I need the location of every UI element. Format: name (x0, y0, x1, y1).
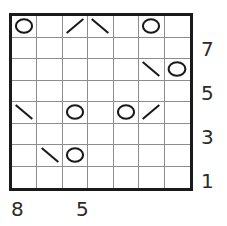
grid-cell-r6-c1[interactable] (12, 124, 37, 146)
grid-cell-r3-c4[interactable] (88, 59, 113, 81)
grid-cell-r7-c5[interactable] (114, 145, 139, 167)
grid-cell-r1-c5[interactable] (114, 16, 139, 38)
grid-cell-r3-c2[interactable] (37, 59, 62, 81)
grid-cell-r1-c4[interactable] (88, 16, 113, 38)
grid-cell-r3-c3[interactable] (63, 59, 88, 81)
grid-cell-r4-c3[interactable] (63, 81, 88, 103)
grid-cell-r6-c4[interactable] (88, 124, 113, 146)
puzzle-diagram: 7531 85 (0, 0, 227, 226)
grid-cell-r1-c2[interactable] (37, 16, 62, 38)
grid-cell-r4-c7[interactable] (165, 81, 190, 103)
grid-cell-r6-c3[interactable] (63, 124, 88, 146)
grid-cell-r6-c6[interactable] (139, 124, 164, 146)
grid-cell-r7-c1[interactable] (12, 145, 37, 167)
grid-cell-r3-c1[interactable] (12, 59, 37, 81)
bottom-clue-2: 5 (76, 199, 89, 219)
grid-cell-r3-c5[interactable] (114, 59, 139, 81)
grid-cell-r8-c7[interactable] (165, 167, 190, 189)
slash-icon (63, 16, 87, 37)
grid-cell-r8-c4[interactable] (88, 167, 113, 189)
grid-cell-r6-c2[interactable] (37, 124, 62, 146)
grid-cell-r4-c1[interactable] (12, 81, 37, 103)
grid-cell-r4-c4[interactable] (88, 81, 113, 103)
circle-icon (114, 102, 138, 123)
backslash-icon (37, 145, 61, 166)
backslash-icon (12, 102, 36, 123)
puzzle-grid-frame (9, 13, 193, 191)
grid-cell-r3-c6[interactable] (139, 59, 164, 81)
grid-cell-r5-c6[interactable] (139, 102, 164, 124)
grid-cell-r1-c1[interactable] (12, 16, 37, 38)
grid-cell-r8-c1[interactable] (12, 167, 37, 189)
grid-cell-r2-c5[interactable] (114, 38, 139, 60)
grid-cell-r5-c4[interactable] (88, 102, 113, 124)
circle-icon (139, 16, 163, 37)
grid-cell-r7-c3[interactable] (63, 145, 88, 167)
grid-cell-r8-c5[interactable] (114, 167, 139, 189)
grid-cell-r8-c2[interactable] (37, 167, 62, 189)
grid-cell-r5-c7[interactable] (165, 102, 190, 124)
puzzle-grid-cells (12, 16, 190, 188)
grid-cell-r5-c1[interactable] (12, 102, 37, 124)
grid-cell-r1-c6[interactable] (139, 16, 164, 38)
grid-cell-r2-c6[interactable] (139, 38, 164, 60)
right-clue-1: 7 (201, 39, 214, 59)
grid-cell-r5-c2[interactable] (37, 102, 62, 124)
grid-cell-r2-c1[interactable] (12, 38, 37, 60)
grid-cell-r5-c5[interactable] (114, 102, 139, 124)
grid-cell-r3-c7[interactable] (165, 59, 190, 81)
circle-icon (165, 59, 190, 80)
grid-cell-r8-c3[interactable] (63, 167, 88, 189)
right-clue-4: 1 (201, 171, 214, 191)
grid-cell-r7-c2[interactable] (37, 145, 62, 167)
grid-cell-r7-c7[interactable] (165, 145, 190, 167)
grid-cell-r2-c2[interactable] (37, 38, 62, 60)
grid-cell-r5-c3[interactable] (63, 102, 88, 124)
grid-cell-r4-c2[interactable] (37, 81, 62, 103)
grid-cell-r4-c6[interactable] (139, 81, 164, 103)
slash-icon (139, 102, 163, 123)
grid-cell-r2-c3[interactable] (63, 38, 88, 60)
grid-cell-r1-c7[interactable] (165, 16, 190, 38)
backslash-icon (139, 59, 163, 80)
grid-cell-r6-c5[interactable] (114, 124, 139, 146)
right-clue-2: 5 (201, 83, 214, 103)
grid-cell-r6-c7[interactable] (165, 124, 190, 146)
grid-cell-r4-c5[interactable] (114, 81, 139, 103)
circle-icon (63, 145, 87, 166)
bottom-clue-1: 8 (11, 199, 24, 219)
grid-cell-r2-c7[interactable] (165, 38, 190, 60)
circle-icon (12, 16, 36, 37)
grid-cell-r1-c3[interactable] (63, 16, 88, 38)
grid-cell-r7-c4[interactable] (88, 145, 113, 167)
right-clue-3: 3 (201, 127, 214, 147)
grid-cell-r7-c6[interactable] (139, 145, 164, 167)
backslash-icon (88, 16, 112, 37)
circle-icon (63, 102, 87, 123)
grid-cell-r2-c4[interactable] (88, 38, 113, 60)
grid-cell-r8-c6[interactable] (139, 167, 164, 189)
